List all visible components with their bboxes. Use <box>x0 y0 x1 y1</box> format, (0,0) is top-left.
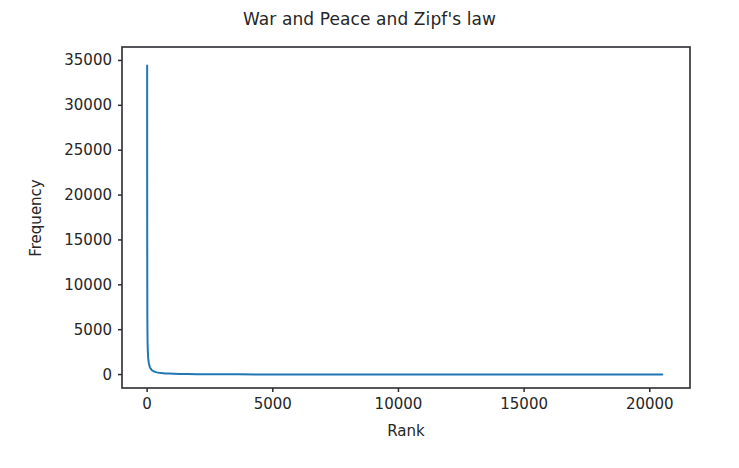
y-axis-ticks: 05000100001500020000250003000035000 <box>64 51 122 383</box>
y-tick-label: 10000 <box>64 276 112 294</box>
x-tick-label: 20000 <box>626 395 674 413</box>
chart-figure: War and Peace and Zipf's law 05000100001… <box>0 0 739 468</box>
y-axis-label: Frequency <box>27 179 45 257</box>
axes-spines <box>122 47 690 388</box>
y-tick-label: 15000 <box>64 231 112 249</box>
y-tick-label: 35000 <box>64 51 112 69</box>
y-tick-label: 20000 <box>64 186 112 204</box>
y-tick-label: 5000 <box>74 321 112 339</box>
zipf-law-line-chart: 05000100001500020000250003000035000 0500… <box>0 0 739 468</box>
data-series-group <box>147 66 662 375</box>
x-tick-label: 15000 <box>500 395 548 413</box>
x-tick-label: 5000 <box>254 395 292 413</box>
plot-frame <box>122 47 690 388</box>
data-series-line <box>147 66 662 375</box>
x-tick-label: 0 <box>142 395 152 413</box>
y-tick-label: 25000 <box>64 141 112 159</box>
x-axis-ticks: 05000100001500020000 <box>142 388 673 413</box>
x-tick-label: 10000 <box>375 395 423 413</box>
y-tick-label: 30000 <box>64 96 112 114</box>
x-axis-label: Rank <box>387 422 425 440</box>
y-tick-label: 0 <box>102 366 112 384</box>
